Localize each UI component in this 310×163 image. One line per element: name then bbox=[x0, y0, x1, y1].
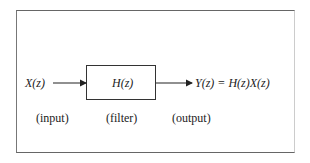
filter-caption: (filter) bbox=[106, 111, 137, 125]
output-caption: (output) bbox=[172, 111, 211, 125]
input-caption: (input) bbox=[36, 111, 69, 125]
arrows bbox=[0, 0, 310, 163]
